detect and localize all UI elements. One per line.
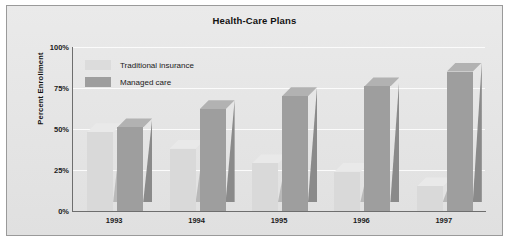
- y-tick-100: 100%: [29, 43, 69, 52]
- y-tick-50: 50%: [29, 125, 69, 134]
- x-axis-line: [72, 211, 486, 212]
- legend-label-traditional: Traditional insurance: [120, 61, 194, 70]
- legend-swatch-icon-managed: [85, 77, 111, 87]
- bar-1993-managed: [117, 127, 143, 211]
- bar-top-face: [117, 118, 152, 127]
- bar-top-face: [447, 63, 482, 72]
- bar-1994-traditional: [170, 149, 196, 211]
- x-tick-1997: 1997: [414, 216, 474, 225]
- bar-side-face: [473, 63, 482, 202]
- bar-1993-traditional: [87, 132, 113, 211]
- bar-front-face: [447, 72, 473, 211]
- bar-top-face: [200, 100, 235, 109]
- legend-item-traditional-insurance: Traditional insurance: [85, 58, 194, 72]
- bar-1996-traditional: [334, 172, 360, 211]
- bar-group-1996: [334, 47, 390, 211]
- bar-1995-traditional: [252, 163, 278, 211]
- bar-1994-managed: [200, 109, 226, 211]
- y-tick-75: 75%: [29, 84, 69, 93]
- bar-top-face: [364, 77, 399, 86]
- legend-label-managed: Managed care: [120, 78, 171, 87]
- bar-1997-managed: [447, 72, 473, 211]
- x-tick-1996: 1996: [331, 216, 391, 225]
- bar-front-face: [170, 149, 196, 211]
- x-axis-labels: 19931994199519961997: [73, 216, 485, 232]
- bar-1996-managed: [364, 86, 390, 211]
- legend-item-managed-care: Managed care: [85, 75, 194, 89]
- x-tick-1995: 1995: [249, 216, 309, 225]
- bar-1995-managed: [282, 96, 308, 211]
- chart-frame: Health-Care Plans Percent Enrollment 100…: [6, 5, 503, 236]
- bar-front-face: [282, 96, 308, 211]
- bar-side-face: [226, 100, 235, 202]
- bar-front-face: [334, 172, 360, 211]
- legend: Traditional insurance Managed care: [85, 58, 194, 92]
- bar-front-face: [417, 186, 443, 211]
- y-axis-ticks: 100% 75% 50% 25% 0%: [25, 47, 69, 211]
- bar-side-face: [143, 118, 152, 202]
- bar-group-1997: [417, 47, 473, 211]
- bar-1997-traditional: [417, 186, 443, 211]
- bar-front-face: [200, 109, 226, 211]
- y-tick-25: 25%: [29, 166, 69, 175]
- bar-side-face: [308, 87, 317, 202]
- bar-group-1995: [252, 47, 308, 211]
- bar-front-face: [364, 86, 390, 211]
- y-tick-0: 0%: [29, 207, 69, 216]
- bar-top-face: [282, 87, 317, 96]
- bar-front-face: [87, 132, 113, 211]
- chart-title: Health-Care Plans: [7, 15, 502, 26]
- bar-side-face: [390, 77, 399, 202]
- bar-front-face: [252, 163, 278, 211]
- bar-front-face: [117, 127, 143, 211]
- x-tick-1993: 1993: [84, 216, 144, 225]
- legend-swatch-icon-traditional: [85, 60, 111, 70]
- x-tick-1994: 1994: [167, 216, 227, 225]
